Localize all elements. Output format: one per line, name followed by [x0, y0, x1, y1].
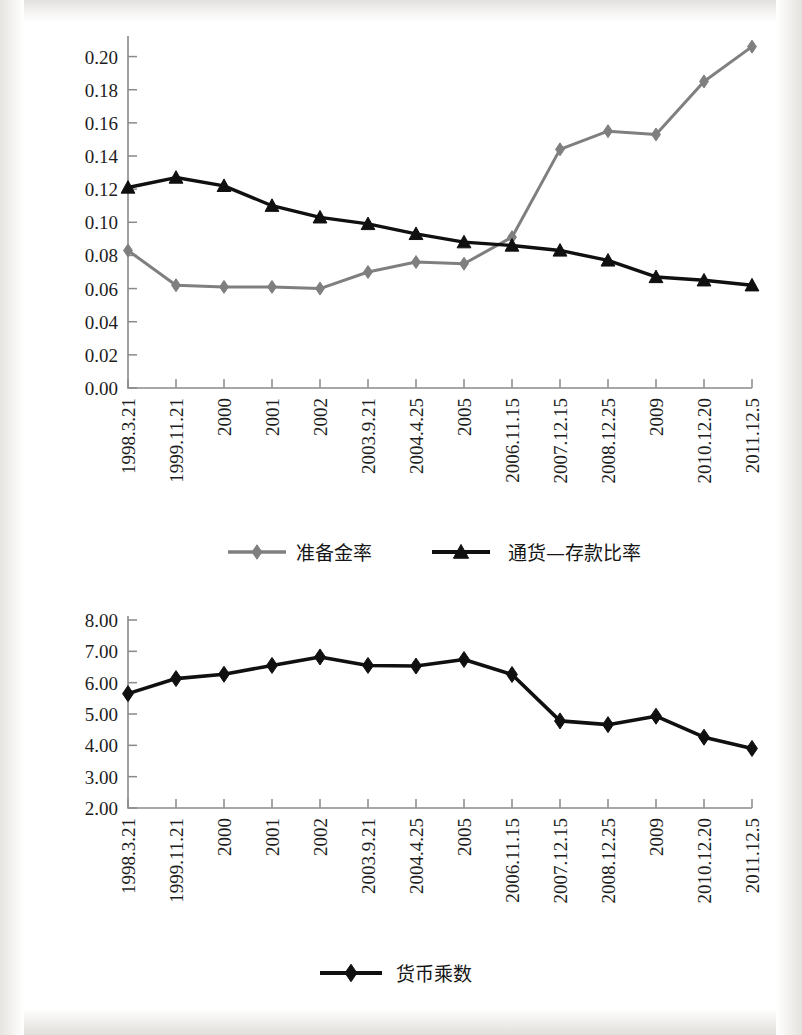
series-line: [128, 178, 752, 286]
data-point-marker: [267, 657, 278, 673]
x-axis-tick-label: 2005: [454, 818, 475, 856]
x-axis-tick-label: 2003.9.21: [358, 818, 379, 894]
data-point-marker: [171, 671, 182, 687]
series-line: [128, 47, 752, 289]
series-markers: [123, 649, 758, 756]
data-point-marker: [220, 280, 229, 293]
y-axis-tick-label: 0.14: [85, 146, 119, 167]
x-axis-tick-label: 2010.12.20: [694, 398, 715, 484]
y-axis-tick-label: 0.00: [85, 378, 118, 399]
x-axis-tick-label: 1998.3.21: [118, 818, 139, 894]
y-axis-tick-label: 4.00: [85, 735, 118, 756]
x-axis-tick-label: 2007.12.15: [550, 818, 571, 904]
data-point-marker: [364, 266, 373, 279]
x-axis-tick-label: 2002: [310, 398, 331, 436]
data-point-marker: [219, 666, 230, 682]
data-point-marker: [748, 40, 757, 53]
data-point-marker: [252, 545, 262, 560]
data-point-marker: [123, 686, 134, 702]
x-axis-tick-label: 2000: [214, 818, 235, 856]
chart-money-multiplier: 2.003.004.005.006.007.008.001998.3.21199…: [0, 585, 802, 1035]
legend-label: 货币乘数: [396, 963, 472, 985]
data-point-marker: [459, 651, 470, 667]
data-point-marker: [345, 964, 357, 982]
data-point-marker: [603, 717, 614, 733]
axis-lines: [128, 36, 752, 388]
x-axis-tick-label: 2005: [454, 398, 475, 436]
x-axis-tick-label: 2008.12.25: [598, 398, 619, 484]
x-axis-tick-label: 2001: [262, 818, 283, 856]
data-point-marker: [363, 657, 374, 673]
legend-label: 准备金率: [296, 542, 372, 564]
data-point-marker: [172, 279, 181, 292]
data-point-marker: [651, 708, 662, 724]
y-axis-tick-label: 7.00: [85, 641, 118, 662]
series-markers: [124, 40, 757, 295]
y-axis-tick-label: 0.10: [85, 212, 118, 233]
x-axis-tick-label: 2009: [646, 398, 667, 436]
y-axis-tick-label: 2.00: [85, 798, 118, 819]
x-axis-tick-label: 2011.12.5: [742, 398, 763, 473]
x-axis-tick-label: 2011.12.5: [742, 818, 763, 893]
y-axis-tick-label: 0.16: [85, 113, 118, 134]
chart-reserve-currency-ratio: 0.000.020.040.060.080.100.120.140.160.18…: [0, 0, 802, 585]
data-point-marker: [268, 280, 277, 293]
x-axis-tick-label: 1999.11.21: [166, 818, 187, 903]
y-axis-tick-label: 5.00: [85, 704, 118, 725]
data-point-marker: [699, 729, 710, 745]
y-axis-tick-label: 0.04: [85, 312, 119, 333]
data-point-marker: [411, 658, 422, 674]
x-axis-tick-label: 2001: [262, 398, 283, 436]
y-axis-tick-label: 0.18: [85, 80, 118, 101]
chart-2-canvas: 2.003.004.005.006.007.008.001998.3.21199…: [0, 585, 802, 1035]
chart-1-canvas: 0.000.020.040.060.080.100.120.140.160.18…: [0, 0, 802, 585]
x-axis-tick-label: 2003.9.21: [358, 398, 379, 474]
y-axis-tick-label: 0.06: [85, 279, 118, 300]
y-axis-tick-label: 3.00: [85, 767, 118, 788]
data-point-marker: [604, 125, 613, 138]
scanned-page: 0.000.020.040.060.080.100.120.140.160.18…: [0, 0, 802, 1035]
x-axis-tick-label: 2000: [214, 398, 235, 436]
series-markers: [121, 171, 759, 291]
y-axis-tick-label: 0.20: [85, 47, 118, 68]
y-axis-tick-label: 0.12: [85, 179, 118, 200]
x-axis-tick-label: 2010.12.20: [694, 818, 715, 904]
x-axis-tick-label: 2008.12.25: [598, 818, 619, 904]
y-axis-tick-label: 0.02: [85, 345, 118, 366]
legend-label: 通货—存款比率: [508, 542, 641, 564]
x-axis-tick-label: 1998.3.21: [118, 398, 139, 474]
y-axis-tick-label: 0.08: [85, 245, 118, 266]
x-axis-tick-label: 2006.11.15: [502, 818, 523, 903]
x-axis-tick-label: 2002: [310, 818, 331, 856]
x-axis-tick-label: 1999.11.21: [166, 398, 187, 483]
y-axis-tick-label: 6.00: [85, 673, 118, 694]
x-axis-tick-label: 2004.4.25: [406, 398, 427, 474]
data-point-marker: [316, 282, 325, 295]
data-point-marker: [747, 740, 758, 756]
x-axis-tick-label: 2006.11.15: [502, 398, 523, 483]
y-axis-tick-label: 8.00: [85, 610, 118, 631]
x-axis-tick-label: 2009: [646, 818, 667, 856]
data-point-marker: [460, 257, 469, 270]
data-point-marker: [315, 649, 326, 665]
x-axis-tick-label: 2004.4.25: [406, 818, 427, 894]
data-point-marker: [412, 256, 421, 269]
x-axis-tick-label: 2007.12.15: [550, 398, 571, 484]
